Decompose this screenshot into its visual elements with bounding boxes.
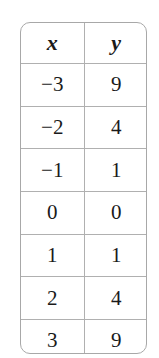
cell-y: 9 (84, 320, 147, 354)
table-row: 2 4 (21, 277, 147, 320)
table-row: 3 9 (21, 320, 147, 354)
cell-y: 1 (84, 234, 147, 277)
cell-y: 4 (84, 106, 147, 149)
cell-y: 9 (84, 64, 147, 107)
header-y: y (84, 23, 147, 64)
xy-value-table: x y −3 9 −2 4 −1 1 0 0 1 1 (20, 22, 147, 354)
cell-x: −2 (21, 106, 84, 149)
header-x: x (21, 23, 84, 64)
cell-x: 0 (21, 192, 84, 235)
cell-x: −1 (21, 149, 84, 192)
table-row: −2 4 (21, 106, 147, 149)
cell-y: 0 (84, 192, 147, 235)
table-row: −3 9 (21, 64, 147, 107)
cell-x: −3 (21, 64, 84, 107)
function-table: x y −3 9 −2 4 −1 1 0 0 1 1 (21, 23, 147, 354)
table-row: 1 1 (21, 234, 147, 277)
cell-y: 1 (84, 149, 147, 192)
table-row: −1 1 (21, 149, 147, 192)
cell-x: 3 (21, 320, 84, 354)
cell-x: 1 (21, 234, 84, 277)
header-row: x y (21, 23, 147, 64)
cell-y: 4 (84, 277, 147, 320)
cell-x: 2 (21, 277, 84, 320)
table-row: 0 0 (21, 192, 147, 235)
